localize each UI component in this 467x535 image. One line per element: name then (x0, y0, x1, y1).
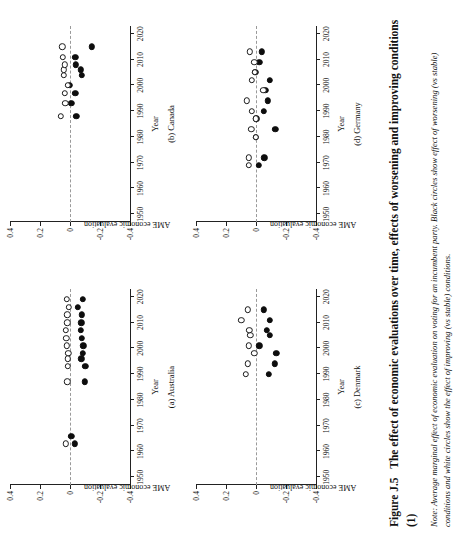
x-axis-title: Year (336, 379, 346, 395)
y-axis-tick-label: 0 (66, 491, 75, 495)
x-axis-tick (316, 84, 320, 85)
data-point-improving (62, 100, 68, 106)
x-axis-tick (130, 59, 134, 60)
x-axis-tick (316, 213, 320, 214)
x-axis-title: Year (150, 379, 160, 395)
x-axis-tick (316, 322, 320, 323)
rotated-page-content: 0.40.20-0.2-0.41950196019701980199020002… (0, 0, 467, 535)
x-axis-title: Year (150, 116, 160, 132)
data-point-improving (66, 304, 72, 310)
panel-denmark: 0.40.20-0.2-0.41950196019701980199020002… (190, 273, 376, 529)
x-axis-tick-label: 1990 (136, 367, 145, 382)
x-axis-tick-label: 1990 (322, 104, 331, 119)
x-axis-tick-label: 2010 (322, 315, 331, 330)
y-axis-tick-label: -0.2 (96, 228, 105, 240)
y-axis-tick (226, 222, 227, 226)
data-point-worsening (73, 113, 79, 119)
data-point-improving (63, 296, 69, 302)
x-axis-tick-label: 1980 (136, 392, 145, 407)
data-point-worsening (79, 350, 85, 356)
x-axis-tick (130, 84, 134, 85)
y-axis-tick-label: -0.2 (96, 491, 105, 503)
x-axis-line (130, 26, 131, 222)
caption-note: Note: Average marginal effect of economi… (428, 19, 452, 527)
data-point-worsening (68, 433, 74, 439)
x-axis-tick (130, 476, 134, 477)
data-point-worsening (72, 54, 78, 60)
x-axis-tick-label: 2020 (322, 26, 331, 41)
x-axis-tick-label: 1980 (322, 129, 331, 144)
y-axis-tick (10, 485, 11, 489)
data-point-improving (252, 134, 258, 140)
x-axis-tick (130, 322, 134, 323)
y-axis-tick (40, 222, 41, 226)
y-axis-tick-label: -0.2 (282, 228, 291, 240)
plot-area: 0.40.20-0.2-0.41950196019701980199020002… (196, 289, 316, 485)
panel-canada: 0.40.20-0.2-0.41950196019701980199020002… (4, 10, 190, 266)
x-axis-tick-label: 1960 (136, 181, 145, 196)
panel-australia: 0.40.20-0.2-0.41950196019701980199020002… (4, 273, 190, 529)
y-axis-tick (226, 485, 227, 489)
x-axis-tick-label: 2000 (136, 341, 145, 356)
data-point-worsening (273, 350, 279, 356)
y-axis-title: AME economic evaluation (256, 220, 342, 229)
panel-title: (d) Germany (352, 102, 362, 146)
panel-title: (c) Denmark (352, 365, 362, 408)
data-point-worsening (78, 327, 84, 333)
data-point-improving (246, 49, 252, 55)
x-axis-tick (316, 399, 320, 400)
y-axis-tick-label: -0.4 (126, 491, 135, 503)
x-axis-tick-label: 2000 (322, 341, 331, 356)
data-point-worsening (267, 317, 273, 323)
data-point-worsening (267, 77, 273, 83)
data-point-improving (60, 54, 66, 60)
data-point-improving (246, 162, 252, 168)
data-point-worsening (259, 49, 265, 55)
y-axis-tick-label: -0.4 (312, 491, 321, 503)
x-axis-tick (130, 187, 134, 188)
y-axis-tick-label: -0.4 (312, 228, 321, 240)
x-axis-line (316, 289, 317, 485)
plot-area: 0.40.20-0.2-0.41950196019701980199020002… (10, 289, 130, 485)
y-axis-tick-label: 0.4 (192, 491, 201, 501)
data-point-improving (248, 126, 254, 132)
y-axis-tick-label: -0.2 (282, 491, 291, 503)
x-axis-tick (316, 59, 320, 60)
y-axis-tick (196, 222, 197, 226)
x-axis-tick (130, 373, 134, 374)
y-axis-tick-label: 0.2 (222, 491, 231, 501)
data-point-improving (244, 306, 250, 312)
y-axis-title: AME economic evaluation (256, 483, 342, 492)
x-axis-tick-label: 1990 (136, 104, 145, 119)
x-axis-tick (316, 347, 320, 348)
y-axis-tick (40, 485, 41, 489)
data-point-improving (248, 77, 254, 83)
x-axis-tick-label: 1960 (136, 444, 145, 459)
data-point-worsening (256, 343, 262, 349)
x-axis-tick (316, 187, 320, 188)
x-axis-tick-label: 1970 (136, 418, 145, 433)
data-point-worsening (261, 306, 267, 312)
plot-area: 0.40.20-0.2-0.41950196019701980199020002… (10, 26, 130, 222)
data-point-worsening (255, 162, 261, 168)
x-axis-tick-label: 1990 (322, 367, 331, 382)
x-axis-tick-label: 1970 (136, 155, 145, 170)
caption-title: Figure J.5 The effect of economic evalua… (386, 19, 419, 527)
x-axis-tick (316, 476, 320, 477)
y-axis-tick-label: 0.2 (222, 228, 231, 238)
data-point-worsening (272, 126, 278, 132)
data-point-worsening (78, 319, 84, 325)
x-axis-tick-label: 2010 (136, 52, 145, 67)
data-point-improving (62, 441, 68, 447)
x-axis-tick-label: 2000 (322, 78, 331, 93)
figure-page: 0.40.20-0.2-0.41950196019701980199020002… (0, 0, 467, 535)
y-axis-tick-label: 0.2 (36, 491, 45, 501)
plot-area: 0.40.20-0.2-0.41950196019701980199020002… (196, 26, 316, 222)
data-point-worsening (79, 312, 85, 318)
data-point-improving (248, 108, 254, 114)
x-axis-tick-label: 1980 (322, 392, 331, 407)
data-point-worsening (71, 441, 77, 447)
data-point-worsening (80, 296, 86, 302)
data-point-worsening (89, 43, 95, 49)
x-axis-tick (316, 296, 320, 297)
